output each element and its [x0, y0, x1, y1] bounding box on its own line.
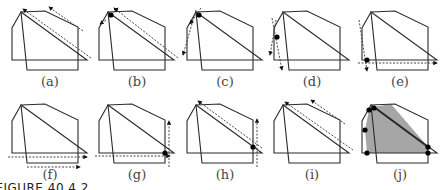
panel-label: (g) [128, 167, 146, 182]
intersection-dot [366, 107, 371, 112]
panel-label: (a) [41, 74, 59, 89]
panel-f: (f) [8, 104, 87, 182]
panel-g: (g) [95, 104, 174, 182]
intersection-diagram: (a)(b)(c)(d)(e)(f)(g)(h)(i)(j) [0, 0, 446, 190]
polygon-p [21, 104, 78, 163]
advance-arrow [198, 101, 262, 148]
advance-arrow [285, 102, 353, 150]
panel-label: (b) [128, 74, 146, 89]
intersection-region [365, 104, 428, 153]
intersection-dot [425, 144, 430, 149]
panel-label: (c) [216, 74, 233, 89]
intersection-dot [371, 105, 376, 110]
panel-i: (i) [274, 100, 353, 182]
polygon-p [196, 11, 253, 70]
panel-label: (e) [391, 74, 409, 89]
intersection-dot [364, 57, 369, 62]
panel-b: (b) [99, 8, 178, 89]
polygon-p [283, 11, 340, 70]
panel-e: (e) [358, 11, 437, 89]
panel-h: (h) [187, 101, 262, 182]
intersection-dot [362, 127, 367, 132]
intersection-dot [274, 34, 279, 39]
intersection-dot [250, 144, 255, 149]
panel-label: (d) [303, 74, 321, 89]
panel-d: (d) [270, 11, 349, 89]
panel-label: (h) [216, 167, 235, 182]
advance-arrow [114, 8, 178, 58]
polygon-p [108, 11, 165, 70]
intersection-dot [108, 12, 113, 17]
intersection-dot [162, 150, 167, 155]
intersection-dot [196, 12, 201, 17]
polygon-p [21, 11, 78, 70]
polygon-p [108, 104, 165, 163]
advance-arrow [183, 10, 196, 55]
intersection-dot [364, 150, 369, 155]
panel-j: (j) [362, 104, 437, 182]
panel-label: (i) [305, 167, 319, 182]
panel-label: (f) [43, 167, 58, 182]
intersection-dot [425, 150, 430, 155]
polygon-p [196, 104, 253, 163]
polygon-p [371, 11, 428, 70]
panel-a: (a) [12, 7, 91, 89]
panel-c: (c) [183, 8, 262, 89]
polygon-p [283, 104, 340, 163]
panel-label: (j) [393, 167, 407, 182]
figure-caption: FIGURE 40.4.2 [0, 181, 89, 190]
